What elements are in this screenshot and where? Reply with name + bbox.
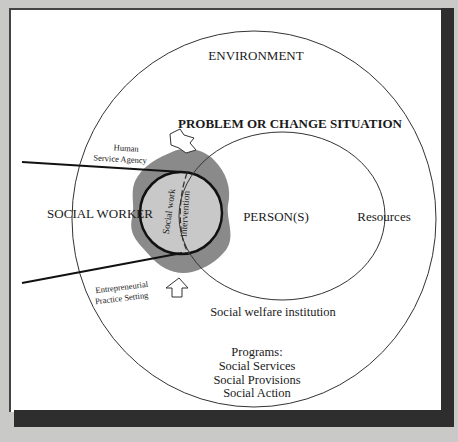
label-persons: PERSON(S)	[243, 209, 309, 224]
label-resources: Resources	[357, 209, 410, 224]
arrow-down-icon	[170, 129, 196, 153]
label-program-social-provisions: Social Provisions	[213, 373, 300, 387]
label-programs-title: Programs:	[231, 345, 282, 359]
label-human-service-agency-2: Service Agency	[93, 153, 148, 166]
label-program-social-action: Social Action	[223, 386, 291, 400]
label-environment: ENVIRONMENT	[208, 48, 303, 63]
label-problem-situation: PROBLEM OR CHANGE SITUATION	[178, 116, 403, 131]
label-social-worker: SOCIAL WORKER	[47, 206, 153, 221]
label-social-welfare-institution: Social welfare institution	[210, 305, 336, 319]
label-program-social-services: Social Services	[219, 359, 296, 373]
social-worker-line-bottom	[22, 253, 182, 283]
label-human-service-agency-1: Human	[113, 142, 139, 153]
arrow-up-icon	[166, 278, 188, 297]
social-work-diagram: ENVIRONMENT PROBLEM OR CHANGE SITUATION …	[0, 0, 458, 442]
